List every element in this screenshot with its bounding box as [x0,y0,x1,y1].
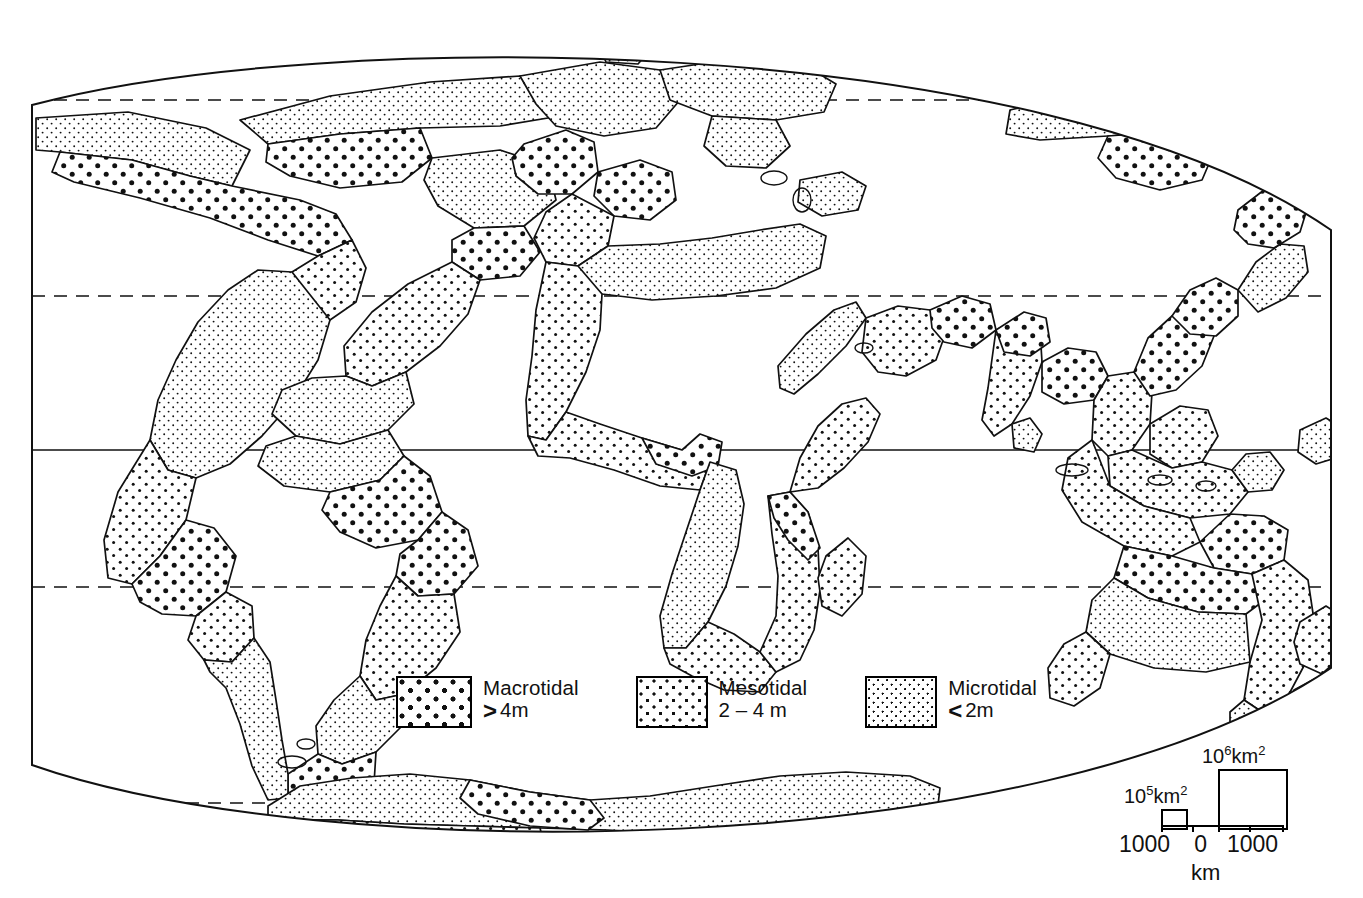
legend-swatch-microtidal [865,676,937,728]
legend-label-microtidal: Microtidal [948,677,1037,699]
island-speck [761,171,787,185]
belt-siberia-micro [1006,82,1286,140]
legend-range-value-microtidal: 2m [965,699,993,721]
belt-philippines-meso [1150,406,1218,468]
belt-british-isles-macro [594,160,676,220]
belt-antarctica-micro [268,772,940,836]
scale-label-left: 1000 [1119,831,1170,858]
island-speck [667,43,685,53]
belt-greenland-micro [520,62,680,136]
legend-label-macrotidal: Macrotidal [483,677,579,699]
belt-nz-south-meso [1292,676,1342,738]
scale-unit-label: km [1191,860,1220,886]
scale-area-large-unit-exponent: 2 [1258,743,1265,758]
less-than-icon: < [948,701,962,720]
belt-sa-west-micro [204,638,288,800]
scale-area-large-unit: km [1231,745,1258,767]
island-speck [587,46,609,58]
belt-nw-africa-meso [526,262,602,440]
belt-africa-west-equator [660,462,744,648]
scale-area-large-base: 10 [1202,745,1224,767]
legend-text-macrotidal: Macrotidal > 4m [483,676,579,720]
belt-horn-africa-meso [790,398,880,492]
belt-kamchatka-meso [1252,108,1316,168]
belt-na-eastcoast-meso [344,262,480,386]
legend-range-macrotidal: > 4m [483,699,579,721]
legend-text-mesotidal: Mesotidal 2 – 4 m [719,676,808,720]
belt-redsea-micro [778,302,866,394]
scale-label-center: 0 [1194,831,1207,858]
world-tidal-map: Macrotidal > 4m Mesotidal 2 – 4 m Microt… [0,0,1363,898]
greater-than-icon: > [483,701,497,720]
legend-text-microtidal: Microtidal < 2m [948,676,1037,720]
scale-area-small-unit: km [1153,785,1180,807]
legend-swatch-mesotidal [636,676,708,728]
scale-label-right: 1000 [1227,831,1278,858]
belt-japan-micro [1238,244,1308,312]
legend-entry-microtidal: Microtidal < 2m [865,676,1037,728]
belt-ne-asia-macro [1234,186,1308,248]
island-speck [297,739,315,749]
scale-distance-labels: 100001000 [1119,831,1319,858]
legend-label-mesotidal: Mesotidal [719,677,808,699]
legend-range-microtidal: < 2m [948,699,1037,721]
scale-area-label-large: 106km2 [1202,743,1265,768]
belt-mediterranean-micro [578,224,826,300]
scale-axis-line [1161,825,1284,827]
belt-pacific-islands-micro [1298,418,1346,464]
legend-entry-mesotidal: Mesotidal 2 – 4 m [636,676,808,728]
legend-range-value-macrotidal: 4m [500,699,528,721]
legend-entry-macrotidal: Macrotidal > 4m [396,676,579,728]
scale-bar: 106km2 105km2 100001000 km [1136,736,1350,868]
belt-madagascar-meso [818,538,866,616]
legend: Macrotidal > 4m Mesotidal 2 – 4 m Microt… [396,676,1096,740]
scale-area-square-large [1218,769,1288,830]
legend-range-mesotidal: 2 – 4 m [719,699,808,721]
belt-baltic-micro [704,116,790,168]
belt-sri-lanka-micro [1012,418,1042,452]
scale-area-label-small: 105km2 [1124,783,1187,808]
scale-area-small-base: 10 [1124,785,1146,807]
scale-area-small-unit-exponent: 2 [1180,783,1187,798]
legend-swatch-macrotidal [396,676,472,728]
legend-range-value-mesotidal: 2 – 4 m [719,699,787,721]
